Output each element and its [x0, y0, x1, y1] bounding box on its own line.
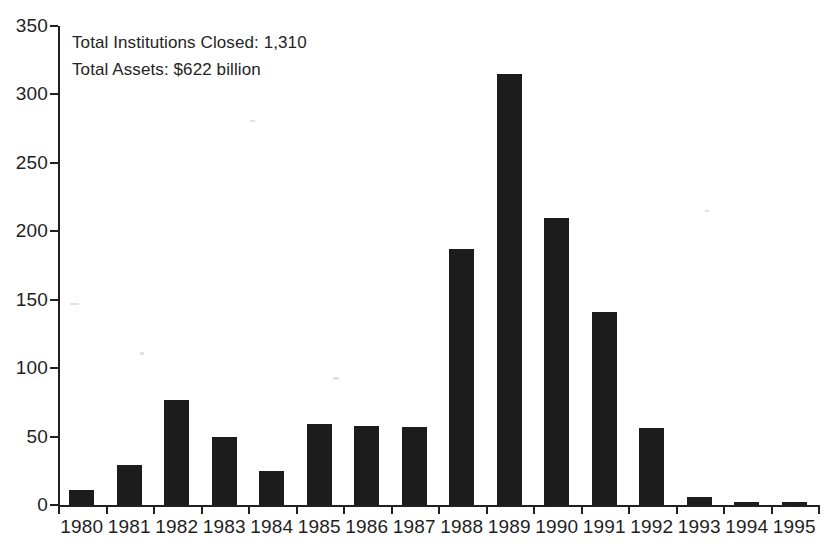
x-axis-tick-label-1988: 1988	[438, 516, 486, 538]
y-axis-tick	[50, 436, 58, 438]
bar-1988	[449, 249, 474, 505]
x-axis-tick-labels: 1980198119821983198419851986198719881989…	[58, 516, 819, 546]
x-axis-tick	[581, 505, 583, 514]
bar-1987	[402, 427, 427, 505]
bar-1980	[69, 490, 94, 505]
x-axis-tick-label-1986: 1986	[343, 516, 391, 538]
plot-area	[58, 26, 818, 505]
x-axis-tick	[676, 505, 678, 514]
y-axis-tick-label: 0	[2, 495, 48, 514]
y-axis-tick	[50, 93, 58, 95]
x-axis-tick	[486, 505, 488, 514]
y-axis-tick-label: 50	[2, 427, 48, 446]
x-axis-tick	[533, 505, 535, 514]
bar-1995	[782, 502, 807, 505]
y-axis-tick-label: 100	[2, 358, 48, 377]
bar-1989	[497, 74, 522, 505]
x-axis-tick-label-1983: 1983	[201, 516, 249, 538]
y-axis-tick	[50, 25, 58, 27]
chart-annotations: Total Institutions Closed: 1,310 Total A…	[72, 29, 492, 83]
bar-1994	[734, 502, 759, 505]
x-axis-tick-label-1982: 1982	[153, 516, 201, 538]
x-axis-tick	[771, 505, 773, 514]
y-axis-tick-labels: 050100150200250300350	[0, 0, 48, 555]
x-axis-tick	[391, 505, 393, 514]
bar-1982	[164, 400, 189, 505]
bar-1993	[687, 497, 712, 505]
x-axis-tick-label-1987: 1987	[391, 516, 439, 538]
bar-chart-figure: 050100150200250300350 198019811982198319…	[0, 0, 834, 555]
annotation-total-assets: Total Assets: $622 billion	[72, 56, 492, 83]
bar-1985	[307, 424, 332, 505]
x-axis-tick-label-1995: 1995	[771, 516, 819, 538]
bar-1981	[117, 465, 142, 505]
x-axis-tick	[153, 505, 155, 514]
bar-1990	[544, 218, 569, 505]
bar-1984	[259, 471, 284, 505]
x-axis-tick	[438, 505, 440, 514]
y-axis-tick	[50, 504, 58, 506]
x-axis-tick-label-1992: 1992	[628, 516, 676, 538]
bar-1986	[354, 426, 379, 505]
bar-1983	[212, 437, 237, 505]
x-axis-tick-label-1985: 1985	[296, 516, 344, 538]
x-axis-tick-label-1991: 1991	[581, 516, 629, 538]
x-axis-tick	[106, 505, 108, 514]
y-axis-tick	[50, 299, 58, 301]
x-axis-tick-label-1980: 1980	[58, 516, 106, 538]
y-axis-tick-label: 250	[2, 153, 48, 172]
x-axis-tick	[628, 505, 630, 514]
x-axis-tick-label-1994: 1994	[723, 516, 771, 538]
bar-1991	[592, 312, 617, 505]
y-axis-tick-label: 200	[2, 221, 48, 240]
annotation-total-institutions-closed: Total Institutions Closed: 1,310	[72, 29, 492, 56]
x-axis-tick	[296, 505, 298, 514]
x-axis-tick-label-1993: 1993	[676, 516, 724, 538]
x-axis-tick	[201, 505, 203, 514]
y-axis-tick	[50, 367, 58, 369]
x-axis-tick	[248, 505, 250, 514]
x-axis-tick-label-1990: 1990	[533, 516, 581, 538]
y-axis-tick-label: 150	[2, 290, 48, 309]
y-axis-tick	[50, 162, 58, 164]
bar-1992	[639, 428, 664, 505]
x-axis-tick	[723, 505, 725, 514]
x-axis-tick-label-1989: 1989	[486, 516, 534, 538]
y-axis-tick-label: 350	[2, 16, 48, 35]
x-axis-tick-label-1981: 1981	[106, 516, 154, 538]
x-axis-tick-label-1984: 1984	[248, 516, 296, 538]
x-axis-tick	[818, 505, 820, 514]
y-axis-tick-label: 300	[2, 84, 48, 103]
x-axis-tick	[58, 505, 60, 514]
y-axis-tick	[50, 230, 58, 232]
x-axis-tick	[343, 505, 345, 514]
